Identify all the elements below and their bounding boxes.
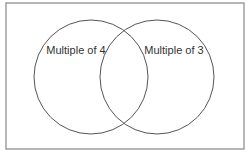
venn-diagram: Multiple of 4 Multiple of 3 xyxy=(0,0,248,154)
set-circle-multiple-of-3 xyxy=(100,20,214,134)
set-circle-multiple-of-4 xyxy=(34,20,148,134)
set-label-multiple-of-3: Multiple of 3 xyxy=(144,44,203,56)
set-label-multiple-of-4: Multiple of 4 xyxy=(46,44,105,56)
universe-rectangle xyxy=(6,3,244,149)
